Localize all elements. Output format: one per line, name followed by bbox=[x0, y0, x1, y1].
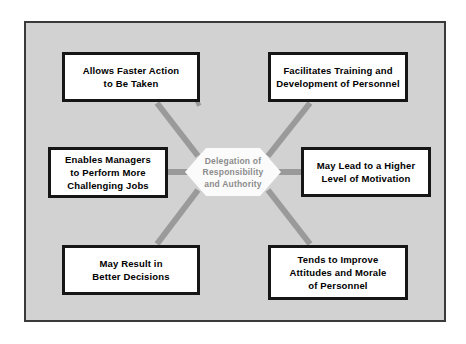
node-top-right-line-1: Facilitates Training and bbox=[276, 64, 399, 77]
node-middle-left-label: Enables Managers to Perform More Challen… bbox=[61, 153, 155, 192]
connector-hub-bottom-left bbox=[157, 190, 198, 244]
diagram-page: Allows Faster Action to Be Taken Facilit… bbox=[0, 0, 466, 344]
connector-top-left bbox=[196, 102, 200, 104]
node-top-right-label: Facilitates Training and Development of … bbox=[272, 64, 403, 90]
node-top-right[interactable]: Facilitates Training and Development of … bbox=[268, 52, 408, 102]
node-bottom-right-line-1: Tends to Improve bbox=[290, 253, 387, 266]
node-middle-left-line-1: Enables Managers bbox=[65, 153, 151, 166]
node-top-left-line-1: Allows Faster Action bbox=[83, 64, 180, 77]
node-bottom-left[interactable]: May Result in Better Decisions bbox=[62, 245, 200, 295]
node-middle-right-label: May Lead to a Higher Level of Motivation bbox=[313, 159, 420, 185]
node-middle-right-line-2: Level of Motivation bbox=[317, 172, 416, 185]
node-bottom-left-line-2: Better Decisions bbox=[92, 270, 169, 283]
node-bottom-right-label: Tends to Improve Attitudes and Morale of… bbox=[286, 253, 391, 292]
node-top-left[interactable]: Allows Faster Action to Be Taken bbox=[62, 52, 200, 102]
node-top-left-label: Allows Faster Action to Be Taken bbox=[79, 64, 184, 90]
node-middle-left-line-3: Challenging Jobs bbox=[65, 179, 151, 192]
node-middle-left-line-2: to Perform More bbox=[65, 166, 151, 179]
node-top-left-line-2: to Be Taken bbox=[83, 77, 180, 90]
node-bottom-right-line-2: Attitudes and Morale bbox=[290, 266, 387, 279]
node-middle-right-line-1: May Lead to a Higher bbox=[317, 159, 416, 172]
node-middle-left[interactable]: Enables Managers to Perform More Challen… bbox=[48, 147, 168, 198]
node-bottom-left-line-1: May Result in bbox=[92, 257, 169, 270]
node-bottom-left-label: May Result in Better Decisions bbox=[88, 257, 173, 283]
node-top-right-line-2: Development of Personnel bbox=[276, 77, 399, 90]
connector-hub-bottom-right bbox=[268, 190, 310, 244]
hub-hexagon bbox=[185, 148, 281, 196]
node-middle-right[interactable]: May Lead to a Higher Level of Motivation bbox=[301, 147, 431, 197]
node-bottom-right[interactable]: Tends to Improve Attitudes and Morale of… bbox=[268, 245, 408, 300]
node-bottom-right-line-3: of Personnel bbox=[290, 279, 387, 292]
